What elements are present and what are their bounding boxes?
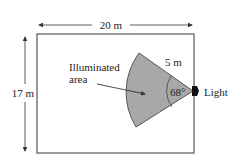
light-icon xyxy=(192,86,199,96)
width-label: 20 m xyxy=(100,19,123,31)
illuminated-area-diagram: 20 m 17 m Illuminated area 5 m 68° Light xyxy=(0,0,241,166)
light-label: Light xyxy=(204,86,228,98)
angle-label: 68° xyxy=(170,86,185,98)
height-label: 17 m xyxy=(12,87,35,99)
area-label-line1: Illuminated xyxy=(69,61,120,73)
area-label-line2: area xyxy=(69,73,87,85)
height-dimension: 17 m xyxy=(12,37,35,151)
width-dimension: 20 m xyxy=(39,19,192,31)
radius-label: 5 m xyxy=(165,56,182,68)
